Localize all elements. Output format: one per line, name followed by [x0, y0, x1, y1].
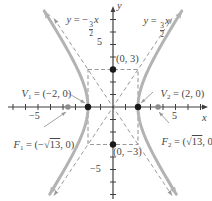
asymptote-left-var-x: x — [94, 14, 99, 25]
fraction-numerator: 3 — [160, 22, 164, 30]
x-axis-tick-label-5: 5 — [172, 111, 177, 122]
hyperbola-figure: y = −32x y = 32x y x 5 −5 −5 5 (0, 3) (0… — [0, 0, 212, 201]
asymptote-right-equals: = — [148, 15, 159, 26]
y-axis-letter: y — [117, 0, 122, 11]
point-label-0-neg3: (0, −3) — [113, 146, 142, 157]
point-label-0-3: (0, 3) — [116, 53, 139, 64]
focus-2-close: , 0) — [202, 136, 212, 147]
focus-2-radicand: 13 — [192, 136, 203, 147]
fraction-denominator: 2 — [89, 29, 93, 38]
fraction-denominator: 2 — [160, 30, 164, 39]
focus-1-close: , 0) — [60, 139, 74, 150]
asymptote-left-equals-minus: = − — [71, 14, 88, 25]
asymptote-right-equation-label: y = 32x — [133, 4, 170, 50]
focus-1-radicand: 13 — [50, 139, 61, 150]
vertex-2-label: V2 = (2, 0) — [150, 77, 204, 112]
y-axis-tick-label-5: 5 — [97, 37, 102, 48]
focus-1-open: = (−√ — [23, 139, 49, 150]
vertex-2-value: = (2, 0) — [170, 88, 204, 99]
asymptote-right-var-x: x — [165, 15, 170, 26]
y-axis-tick-label-neg5: −5 — [90, 164, 101, 175]
focus-2-open: = (√ — [171, 136, 191, 147]
focus-1-label: F1 = (−√13, 0) — [3, 128, 74, 163]
x-axis-letter: x — [202, 112, 207, 123]
vertex-1-value: = (−2, 0) — [31, 88, 71, 99]
asymptote-left-equation-label: y = −32x — [56, 3, 99, 49]
fraction-numerator: 3 — [89, 21, 93, 29]
focus-2-label: F2 = (√13, 0) — [151, 125, 212, 160]
asymptote-left-fraction: 32 — [89, 21, 93, 38]
vertex-1-label: V1 = (−2, 0) — [11, 77, 71, 112]
asymptote-right-fraction: 32 — [160, 22, 164, 39]
x-axis-tick-label-neg5: −5 — [29, 111, 40, 122]
